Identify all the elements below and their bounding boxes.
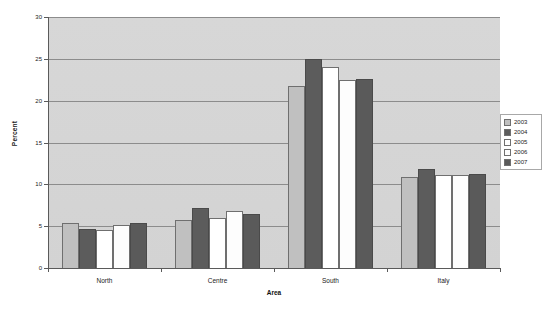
legend-swatch-icon xyxy=(504,159,511,166)
legend-item: 2006 xyxy=(504,147,539,157)
bar xyxy=(113,225,130,268)
bar-group xyxy=(48,17,161,268)
bar xyxy=(175,220,192,268)
legend-item: 2005 xyxy=(504,137,539,147)
y-tick-mark xyxy=(44,101,48,102)
bar xyxy=(435,175,452,268)
x-tick-mark xyxy=(387,268,388,272)
x-tick-label: South xyxy=(291,277,371,284)
y-axis-line xyxy=(48,17,49,269)
bar-chart: Percent 051015202530 NorthCentreSouthIta… xyxy=(0,0,548,309)
bar xyxy=(356,79,373,268)
x-tick-mark xyxy=(48,268,49,272)
bar xyxy=(401,177,418,268)
bar xyxy=(96,230,113,268)
bar xyxy=(243,214,260,268)
bar xyxy=(418,169,435,268)
x-tick-mark xyxy=(500,268,501,272)
legend-label: 2004 xyxy=(514,129,527,135)
y-tick-label: 0 xyxy=(22,265,42,271)
bar xyxy=(130,223,147,268)
y-tick-label: 15 xyxy=(22,139,42,145)
bar-group xyxy=(161,17,274,268)
legend-label: 2003 xyxy=(514,119,527,125)
y-tick-mark xyxy=(44,143,48,144)
legend-label: 2007 xyxy=(514,159,527,165)
legend-item: 2004 xyxy=(504,127,539,137)
legend-label: 2005 xyxy=(514,139,527,145)
x-tick-mark xyxy=(274,268,275,272)
plot-area xyxy=(48,17,500,268)
bar xyxy=(452,175,469,268)
chart-legend: 20032004200520062007 xyxy=(500,114,542,170)
y-tick-mark xyxy=(44,184,48,185)
y-tick-mark xyxy=(44,59,48,60)
y-tick-label: 25 xyxy=(22,55,42,61)
x-tick-label: Italy xyxy=(404,277,484,284)
legend-label: 2006 xyxy=(514,149,527,155)
legend-swatch-icon xyxy=(504,149,511,156)
y-tick-label: 20 xyxy=(22,97,42,103)
y-tick-mark xyxy=(44,226,48,227)
legend-swatch-icon xyxy=(504,129,511,136)
bar xyxy=(288,86,305,268)
y-tick-label: 10 xyxy=(22,181,42,187)
bar xyxy=(62,223,79,268)
bar xyxy=(305,59,322,268)
legend-swatch-icon xyxy=(504,119,511,126)
x-tick-mark xyxy=(161,268,162,272)
bar xyxy=(469,174,486,268)
bar xyxy=(322,67,339,268)
bar xyxy=(226,211,243,268)
x-tick-label: Centre xyxy=(178,277,258,284)
bar-group xyxy=(274,17,387,268)
y-tick-label: 5 xyxy=(22,223,42,229)
y-tick-label: 30 xyxy=(22,14,42,20)
y-tick-mark xyxy=(44,17,48,18)
y-axis-title: Percent xyxy=(11,104,18,164)
legend-item: 2007 xyxy=(504,157,539,167)
x-tick-label: North xyxy=(65,277,145,284)
legend-swatch-icon xyxy=(504,139,511,146)
bar xyxy=(339,80,356,268)
bar xyxy=(79,229,96,268)
bar-group xyxy=(387,17,500,268)
bar xyxy=(209,218,226,268)
bar xyxy=(192,208,209,268)
legend-item: 2003 xyxy=(504,117,539,127)
x-axis-title: Area xyxy=(48,289,500,296)
